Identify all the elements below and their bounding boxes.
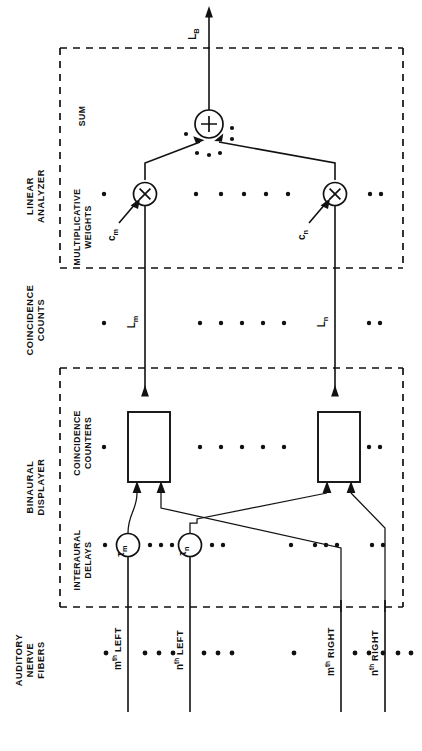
stage-label-binaural-displayer: BINAURAL DISPLAYER — [25, 458, 46, 515]
substage-label-line: DELAYS — [83, 541, 93, 578]
fiber-index: m — [112, 661, 123, 670]
output-label-sub: B — [192, 28, 201, 33]
stage-label-line: LINEAR — [25, 177, 35, 215]
stage-label-line: ANALYZER — [36, 169, 46, 223]
weight-label-c-m: cm — [106, 229, 120, 242]
fiber-side: RIGHT — [370, 630, 380, 661]
fiber-index: m — [325, 667, 336, 676]
substage-label-line: WEIGHTS — [83, 205, 93, 249]
fiber-label-m-right: mth RIGHT — [324, 627, 336, 676]
output-line — [205, 6, 213, 110]
coincidence-counter-box-m — [128, 412, 170, 482]
svg-text:nth LEFT: nth LEFT — [173, 630, 185, 670]
substage-label-line: COINCIDENCE — [72, 410, 82, 476]
count-label-L-n: Ln — [316, 316, 330, 327]
fiber-label-n-left: nth LEFT — [173, 630, 185, 670]
delay-node-tau-n: τn — [177, 534, 202, 557]
fiber-side: LEFT — [175, 630, 185, 655]
wire-n-right-fiber-to-counter-n — [351, 493, 385, 612]
substage-label-sum: SUM — [77, 106, 87, 127]
stage-label-line: NERVE — [25, 643, 35, 678]
weight-label-sub: n — [301, 229, 310, 234]
weight-label-c-n: cn — [296, 229, 310, 240]
count-label-L-m: Lm — [126, 315, 140, 328]
weight-to-sum-link-m — [145, 136, 205, 180]
stage-label-line: FIBERS — [36, 641, 46, 678]
svg-text:LB: LB — [187, 28, 201, 39]
fiber-label-m-left: mth LEFT — [111, 627, 123, 670]
substage-label-line: MULTIPLICATIVE — [72, 189, 82, 266]
substage-label-interaural-delays: INTERAURAL DELAYS — [72, 530, 93, 591]
count-label-sub: n — [321, 316, 330, 321]
delay-row-ellipsis-dots — [103, 543, 385, 547]
stage-label-auditory-nerve-fibers: AUDITORY NERVE FIBERS — [14, 634, 46, 686]
stage-label-line: AUDITORY — [14, 634, 24, 686]
count-arrowhead-m — [141, 385, 149, 397]
svg-text:Lm: Lm — [126, 315, 140, 328]
substage-label-line: SUM — [77, 106, 87, 127]
wire-tau-m-to-counter-m — [128, 493, 137, 533]
stage-label-line: BINAURAL — [25, 461, 35, 514]
fiber-row-ellipsis-dots — [104, 651, 414, 656]
count-arrowhead-n — [331, 385, 339, 397]
stage-label-coincidence-counts: COINCIDENCE COUNTS — [25, 285, 46, 356]
substage-label-coincidence-counters: COINCIDENCE COUNTERS — [72, 410, 93, 476]
fiber-side: LEFT — [113, 627, 123, 652]
substage-label-line: COUNTERS — [83, 417, 93, 469]
coincidence-counter-box-n — [318, 412, 360, 482]
svg-text:mth RIGHT: mth RIGHT — [324, 627, 336, 676]
figure-canvas: LINEAR ANALYZER COINCIDENCE COUNTS BINAU… — [0, 0, 422, 751]
substage-label-multiplicative-weights: MULTIPLICATIVE WEIGHTS — [72, 189, 93, 266]
weight-arrow-n — [309, 198, 330, 223]
count-row-ellipsis-dots — [102, 321, 382, 325]
svg-text:Ln: Ln — [316, 316, 330, 327]
delay-sub: n — [182, 546, 191, 551]
fiber-side: RIGHT — [326, 627, 336, 658]
weight-label-sub: m — [111, 229, 120, 236]
output-arrowhead — [205, 6, 213, 18]
stage-label-line: COINCIDENCE — [25, 285, 35, 356]
stage-label-line: COUNTS — [36, 299, 46, 341]
block-diagram: LINEAR ANALYZER COINCIDENCE COUNTS BINAU… — [0, 0, 422, 751]
svg-text:nth RIGHT: nth RIGHT — [368, 630, 380, 676]
weight-arrow-m — [119, 198, 140, 223]
output-label: LB — [187, 28, 201, 39]
svg-text:cm: cm — [106, 229, 120, 242]
svg-text:mth LEFT: mth LEFT — [111, 627, 123, 670]
delay-node-tau-m: τm — [115, 534, 140, 557]
wire-tau-n-to-counter-n — [190, 493, 327, 533]
count-label-sub: m — [131, 315, 140, 322]
summer-node — [195, 110, 223, 138]
stage-label-linear-analyzer: LINEAR ANALYZER — [25, 169, 46, 223]
stage-label-line: DISPLAYER — [36, 458, 46, 515]
svg-text:cn: cn — [296, 229, 310, 240]
fiber-label-n-right: nth RIGHT — [368, 630, 380, 676]
delay-sub: m — [120, 545, 129, 552]
substage-label-line: INTERAURAL — [72, 530, 82, 591]
